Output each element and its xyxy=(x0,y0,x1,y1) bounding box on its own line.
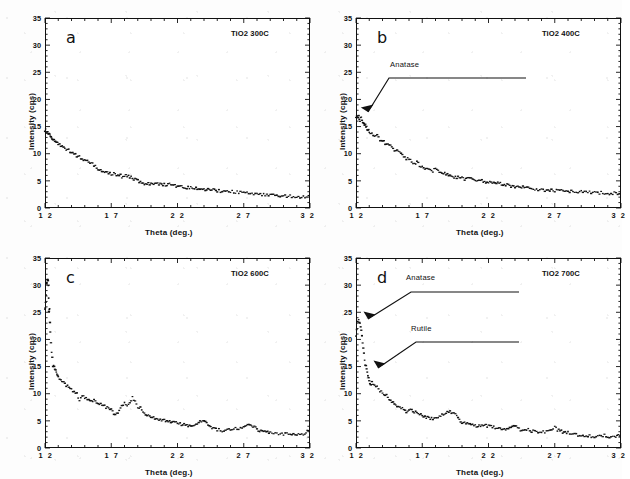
y-tick-c-10: 10 xyxy=(28,389,41,398)
panel-title-b: TiO2 400C xyxy=(542,29,580,38)
x-axis-label-c: Theta (deg.) xyxy=(145,468,193,477)
x-tick-a-12: 1 2 xyxy=(34,211,58,220)
y-tick-c-35: 35 xyxy=(28,254,41,263)
y-tick-b-20: 20 xyxy=(339,95,352,104)
y-tick-b-10: 10 xyxy=(339,149,352,158)
y-tick-a-10: 10 xyxy=(28,149,41,158)
y-tick-c-15: 15 xyxy=(28,362,41,371)
y-tick-d-35: 35 xyxy=(339,254,352,263)
x-tick-a-17: 1 7 xyxy=(100,211,124,220)
y-tick-d-30: 30 xyxy=(339,281,352,290)
y-tick-c-25: 25 xyxy=(28,308,41,317)
annotation-arrow-anatase-b xyxy=(356,60,526,135)
x-tick-d-22: 2 2 xyxy=(477,451,501,460)
panel-letter-b: b xyxy=(377,28,387,47)
panel-letter-c: c xyxy=(66,268,75,287)
plot-render-a xyxy=(45,18,310,208)
x-tick-c-12: 1 2 xyxy=(34,451,58,460)
y-tick-d-25: 25 xyxy=(339,308,352,317)
x-axis-label-d: Theta (deg.) xyxy=(456,468,504,477)
x-tick-b-22: 2 2 xyxy=(477,211,501,220)
y-tick-b-35: 35 xyxy=(339,14,352,23)
panel-d: d TiO2 700C Intensity (cps) Theta (deg.)… xyxy=(311,240,622,479)
panel-a: a TiO2 300C Intensity (cps) Theta (deg.)… xyxy=(0,0,311,240)
x-tick-a-27: 2 7 xyxy=(232,211,256,220)
y-tick-a-30: 30 xyxy=(28,41,41,50)
y-tick-d-5: 5 xyxy=(339,417,352,426)
panel-title-d: TiO2 700C xyxy=(542,269,580,278)
annotation-arrow-rutile-d xyxy=(356,332,521,382)
y-tick-b-5: 5 xyxy=(339,177,352,186)
x-axis-label-a: Theta (deg.) xyxy=(145,228,193,237)
panel-b: b TiO2 400C Intensity (cps) Theta (deg.)… xyxy=(311,0,622,240)
y-tick-d-15: 15 xyxy=(339,362,352,371)
y-tick-d-20: 20 xyxy=(339,335,352,344)
y-tick-b-25: 25 xyxy=(339,68,352,77)
y-tick-a-20: 20 xyxy=(28,95,41,104)
x-tick-b-17: 1 7 xyxy=(411,211,435,220)
y-tick-a-35: 35 xyxy=(28,14,41,23)
x-tick-d-12: 1 2 xyxy=(345,451,369,460)
y-tick-a-15: 15 xyxy=(28,122,41,131)
panel-title-a: TiO2 300C xyxy=(231,29,269,38)
panel-letter-a: a xyxy=(66,28,76,47)
x-tick-b-12: 1 2 xyxy=(345,211,369,220)
y-tick-a-25: 25 xyxy=(28,68,41,77)
x-tick-a-22: 2 2 xyxy=(166,211,190,220)
x-tick-b-32: 3 2 xyxy=(607,211,630,220)
annotation-arrow-anatase-d xyxy=(356,280,521,330)
x-tick-c-27: 2 7 xyxy=(232,451,256,460)
x-tick-b-27: 2 7 xyxy=(543,211,567,220)
x-tick-d-27: 2 7 xyxy=(543,451,567,460)
panel-title-c: TiO2 600C xyxy=(231,269,269,278)
y-tick-c-5: 5 xyxy=(28,417,41,426)
y-tick-b-15: 15 xyxy=(339,122,352,131)
y-tick-a-5: 5 xyxy=(28,177,41,186)
x-tick-c-17: 1 7 xyxy=(100,451,124,460)
y-tick-d-10: 10 xyxy=(339,389,352,398)
x-tick-d-32: 3 2 xyxy=(607,451,630,460)
panel-c: c TiO2 600C Intensity (cps) Theta (deg.)… xyxy=(0,240,311,479)
x-axis-label-b: Theta (deg.) xyxy=(456,228,504,237)
y-tick-c-20: 20 xyxy=(28,335,41,344)
y-tick-b-30: 30 xyxy=(339,41,352,50)
x-tick-d-17: 1 7 xyxy=(411,451,435,460)
y-tick-c-30: 30 xyxy=(28,281,41,290)
x-tick-c-22: 2 2 xyxy=(166,451,190,460)
plot-render-c xyxy=(45,258,310,448)
